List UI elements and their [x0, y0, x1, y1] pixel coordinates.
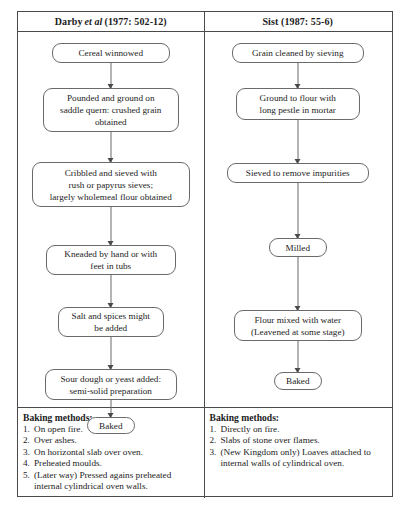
column-header-darby-italic: et al [83, 16, 105, 27]
node-sist-5: Flour mixed with water (Leavened at some… [234, 310, 362, 341]
list-item-number: 4. [23, 458, 30, 469]
list-item-number: 3. [210, 447, 217, 458]
list-item-number: 2. [210, 435, 217, 446]
connector-sist-4-5 [297, 257, 298, 310]
node-darby-2: Pounded and ground on saddle quern: crus… [43, 88, 179, 132]
column-header-sist: Sist (1987: 55-6) [205, 12, 392, 31]
node-sist-1: Grain cleaned by sieving [232, 43, 364, 63]
list-item-text: Slabs of stone over flames. [221, 435, 320, 445]
list-item-text: Directly on fire. [221, 424, 280, 434]
connector-sist-3-4 [297, 183, 298, 238]
list-item-text: Preheated moulds. [34, 458, 102, 468]
list-item-text: (New Kingdom only) Loaves attached to in… [221, 447, 371, 468]
node-darby-6: Sour dough or yeast added: semi-solid pr… [45, 369, 177, 400]
baking-methods-sist-list: 1. Directly on fire. 2. Slabs of stone o… [210, 424, 387, 470]
list-item: 2. Slabs of stone over flames. [210, 435, 387, 446]
list-item-text: Over ashes. [34, 435, 77, 445]
list-item: 3. On horizontal slab over oven. [23, 447, 199, 458]
node-darby-5: Salt and spices might be added [58, 307, 164, 337]
node-darby-4: Kneaded by hand or with feet in tubs [46, 245, 176, 275]
connector-sist-1-2 [297, 63, 298, 88]
list-item-text: On open fire. [34, 424, 83, 434]
node-darby-3: Cribbled and sieved with rush or papyrus… [32, 162, 190, 207]
list-item-text: (Later way) Pressed agains preheated int… [34, 470, 171, 491]
flowchart-body: Cereal winnowed Pounded and ground on sa… [18, 32, 392, 408]
flowchart-column-sist: Grain cleaned by sieving Ground to flour… [205, 32, 392, 407]
list-item-number: 1. [210, 424, 217, 435]
list-item: 5. (Later way) Pressed agains preheated … [23, 470, 199, 493]
table-header-row: Darby et al (1977: 502-12) Sist (1987: 5… [18, 12, 392, 32]
baking-methods-sist-title: Baking methods: [210, 412, 387, 423]
connector-sist-2-3 [297, 120, 298, 163]
column-header-sist-text: Sist (1987: 55-6) [262, 16, 333, 27]
list-item-text: On horizontal slab over oven. [34, 447, 143, 457]
column-header-darby-prefix: Darby [55, 16, 83, 27]
flowchart-column-darby: Cereal winnowed Pounded and ground on sa… [18, 32, 205, 407]
connector-darby-1-2 [110, 63, 111, 88]
baking-methods-sist: Baking methods: 1. Directly on fire. 2. … [205, 408, 392, 498]
node-sist-3: Sieved to remove impurities [227, 163, 369, 183]
connector-darby-4-5 [110, 275, 111, 307]
column-header-darby-suffix: (1977: 502-12) [105, 16, 167, 27]
list-item: 2. Over ashes. [23, 435, 199, 446]
list-item: 1. Directly on fire. [210, 424, 387, 435]
list-item-number: 3. [23, 447, 30, 458]
node-sist-2: Ground to flour with long pestle in mort… [236, 88, 360, 120]
node-sist-6-baked: Baked [274, 372, 322, 390]
figure-frame: Darby et al (1977: 502-12) Sist (1987: 5… [17, 11, 393, 497]
list-item-number: 2. [23, 435, 30, 446]
connector-darby-3-4 [110, 207, 111, 245]
column-header-darby: Darby et al (1977: 502-12) [18, 12, 205, 31]
list-item: 4. Preheated moulds. [23, 458, 199, 469]
connector-darby-6-7 [110, 400, 111, 417]
list-item-number: 5. [23, 470, 30, 481]
baking-methods-row: Baking methods: 1. On open fire. 2. Over… [18, 408, 392, 498]
connector-darby-2-3 [110, 132, 111, 162]
list-item-number: 1. [23, 424, 30, 435]
connector-sist-5-6 [297, 341, 298, 372]
connector-darby-5-6 [110, 337, 111, 369]
node-darby-1: Cereal winnowed [52, 43, 170, 63]
node-sist-4-milled: Milled [269, 238, 327, 257]
node-darby-7-baked: Baked [87, 417, 135, 434]
list-item: 3. (New Kingdom only) Loaves attached to… [210, 447, 387, 470]
baking-methods-darby-list: 1. On open fire. 2. Over ashes. 3. On ho… [23, 424, 199, 492]
